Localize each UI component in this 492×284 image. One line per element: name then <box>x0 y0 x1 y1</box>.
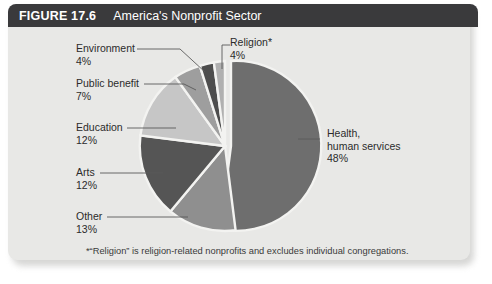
callout-health-line1: Health, <box>327 127 360 139</box>
callout-arts-pct: 12% <box>76 179 97 192</box>
callout-health-pct: 48% <box>327 152 401 165</box>
callout-health-human-services: Health, human services 48% <box>327 127 401 165</box>
figure-title: America's Nonprofit Sector <box>113 9 261 23</box>
callout-other-name: Other <box>76 210 102 222</box>
pie-chart-area: Environment 4% Public benefit 7% Educati… <box>8 27 470 260</box>
callout-education: Education 12% <box>76 121 123 146</box>
pie-slices <box>140 61 322 231</box>
callout-religion-name: Religion* <box>230 36 272 48</box>
pie-slice-health-human-services <box>220 61 321 231</box>
callout-health-line2: human services <box>327 140 401 153</box>
callout-arts-name: Arts <box>76 166 95 178</box>
callout-religion: Religion* 4% <box>230 36 272 61</box>
callout-public-benefit: Public benefit 7% <box>76 77 139 102</box>
callout-environment-pct: 4% <box>76 55 135 68</box>
callout-education-name: Education <box>76 121 123 133</box>
callout-education-pct: 12% <box>76 134 123 147</box>
callout-other-pct: 13% <box>76 223 102 236</box>
callout-environment-name: Environment <box>76 42 135 54</box>
callout-religion-pct: 4% <box>230 49 272 62</box>
figure-number: FIGURE 17.6 <box>19 9 96 23</box>
figure-header-bar: FIGURE 17.6 America's Nonprofit Sector <box>8 4 478 27</box>
callout-public-benefit-pct: 7% <box>76 90 139 103</box>
callout-environment: Environment 4% <box>76 42 135 67</box>
callout-arts: Arts 12% <box>76 166 97 191</box>
figure-footnote: *“Religion” is religion-related nonprofi… <box>86 246 408 256</box>
figure-container: FIGURE 17.6 America's Nonprofit Sector <box>0 0 492 284</box>
callout-other: Other 13% <box>76 210 102 235</box>
callout-public-benefit-name: Public benefit <box>76 77 139 89</box>
